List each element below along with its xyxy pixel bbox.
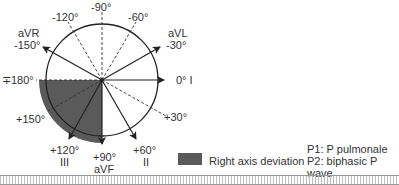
- axis-label-plus120: +120°: [50, 145, 79, 156]
- lead-label-avl: aVL: [168, 28, 188, 39]
- lead-label-avr: aVR: [18, 28, 39, 39]
- right-axis-deviation-region: [39, 80, 102, 143]
- axis-label-minus60: -60°: [128, 12, 148, 23]
- axis-label-plus60: +60°: [133, 145, 156, 156]
- lead-label-avf: aVF: [94, 164, 114, 175]
- axis-label-plus90: +90°: [93, 152, 116, 163]
- note-p1: P1: P pulmonale: [307, 143, 388, 155]
- legend-swatch: [178, 153, 202, 165]
- ecg-grid-strip: [0, 175, 399, 185]
- axis-label-plus30: +30°: [164, 112, 187, 123]
- axis-label-0: 0° I: [176, 75, 193, 86]
- axis-label-plus150: +150°: [16, 114, 45, 125]
- axis-label-minus90: -90°: [91, 2, 111, 13]
- axis-label-minus30: -30°: [166, 40, 186, 51]
- axis-label-minus120: -120°: [52, 12, 78, 23]
- axis-label-minus150: -150°: [14, 40, 40, 51]
- lead-label-iii: III: [60, 157, 69, 168]
- axis-label-180: ∓180°: [2, 75, 34, 86]
- legend-label: Right axis deviation: [209, 155, 304, 167]
- lead-label-ii: II: [143, 157, 149, 168]
